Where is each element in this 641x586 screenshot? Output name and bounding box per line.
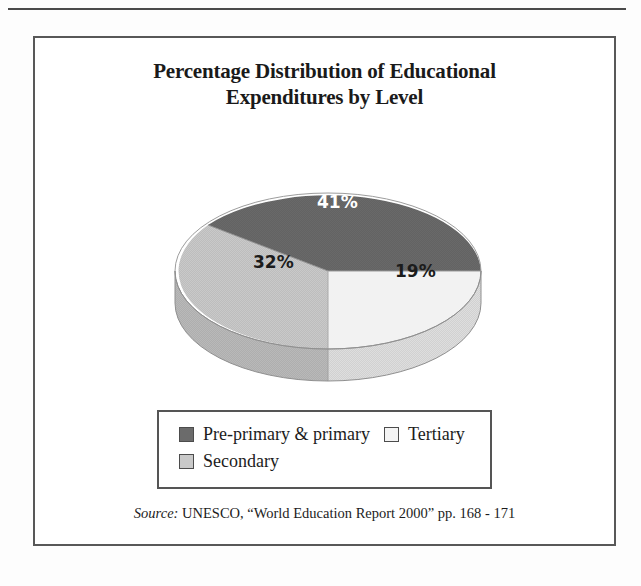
chart-title-line-1: Percentage Distribution of Educational [153, 59, 496, 83]
white-swatch-icon [384, 427, 399, 442]
dark-gray-swatch-icon [179, 427, 194, 442]
legend-item-secondary: Secondary [179, 451, 279, 472]
legend-label-tertiary: Tertiary [408, 424, 465, 445]
pie-value-label-pre-primary-primary: 41% [317, 192, 358, 212]
source-note-text: UNESCO, “World Education Report 2000” pp… [182, 505, 515, 521]
figure-frame: Percentage Distribution of Educational E… [33, 36, 616, 546]
pie-value-label-secondary: 32% [253, 252, 294, 272]
legend-label-pre-primary-primary: Pre-primary & primary [203, 424, 370, 445]
legend-item-tertiary: Tertiary [384, 424, 465, 445]
mid-gray-swatch-icon [179, 454, 194, 469]
chart-title-line-2: Expenditures by Level [35, 84, 614, 110]
chart-title: Percentage Distribution of Educational E… [35, 58, 614, 110]
chart-legend: Pre-primary & primary Tertiary Secondary [157, 410, 492, 489]
page-top-rule [8, 8, 626, 10]
pie-chart-svg [163, 156, 493, 386]
legend-label-secondary: Secondary [203, 451, 279, 472]
pie-chart: 41% 32% 19% [163, 156, 493, 386]
pie-value-label-tertiary: 19% [395, 261, 436, 281]
legend-row-2: Secondary [179, 448, 490, 475]
source-note: Source: UNESCO, “World Education Report … [35, 505, 614, 522]
legend-item-pre-primary-primary: Pre-primary & primary [179, 424, 370, 445]
legend-row-1: Pre-primary & primary Tertiary [179, 421, 490, 448]
source-note-label: Source: [134, 505, 179, 521]
